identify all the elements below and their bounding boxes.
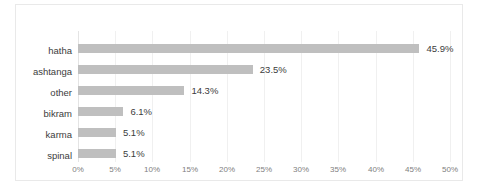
xtick-label-5: 25%	[244, 165, 284, 174]
bar-chart: 0% 5% 10% 15% 20% 25% 30% 35% 40% 45% 50…	[0, 0, 479, 191]
value-label-bikram: 6.1%	[130, 106, 152, 117]
value-label-ashtanga: 23.5%	[260, 64, 287, 75]
category-label-spinal: spinal	[0, 150, 72, 161]
category-label-karma: karma	[0, 129, 72, 140]
xtick-label-0: 0%	[58, 165, 98, 174]
bar-other	[78, 86, 184, 95]
bar-karma	[78, 128, 116, 137]
xtick-label-6: 30%	[281, 165, 321, 174]
value-label-karma: 5.1%	[123, 127, 145, 138]
xtick-label-1: 5%	[95, 165, 135, 174]
xtick-label-2: 10%	[132, 165, 172, 174]
bar-bikram	[78, 107, 123, 116]
category-label-bikram: bikram	[0, 108, 72, 119]
value-label-hatha: 45.9%	[426, 43, 453, 54]
bar-hatha	[78, 44, 419, 53]
xtick-label-4: 20%	[207, 165, 247, 174]
xtick-label-8: 40%	[356, 165, 396, 174]
category-label-other: other	[0, 87, 72, 98]
xtick-label-3: 15%	[170, 165, 210, 174]
xtick-label-10: 50%	[430, 165, 470, 174]
xtick-label-9: 45%	[393, 165, 433, 174]
xtick-label-7: 35%	[318, 165, 358, 174]
category-label-ashtanga: ashtanga	[0, 66, 72, 77]
bar-ashtanga	[78, 65, 253, 74]
bar-spinal	[78, 149, 116, 158]
category-label-hatha: hatha	[0, 45, 72, 56]
value-label-spinal: 5.1%	[123, 148, 145, 159]
value-label-other: 14.3%	[191, 85, 218, 96]
